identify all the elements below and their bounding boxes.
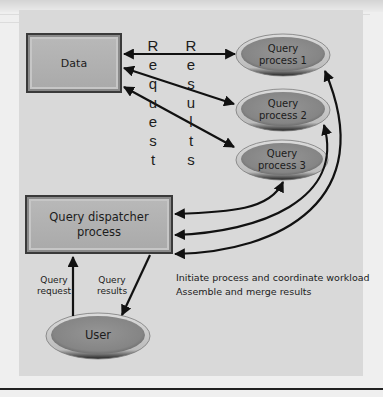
dispatcher-qp3-arrow [175,182,283,214]
data-box-label: Data [61,57,87,70]
caption-line1: Initiate process and coordinate workload [176,271,370,285]
dispatcher-caption: Initiate process and coordinate workload… [176,271,370,299]
query-request-label-line1: Query [34,275,74,286]
results-letter: e [184,57,198,72]
request-letter: u [146,95,160,110]
request-letter: R [146,38,160,53]
results-letter: t [184,133,198,148]
results-letter: l [184,114,198,129]
request-letter: t [146,152,160,167]
data-qp3-arrow [124,87,234,147]
results-letter: R [184,38,198,53]
query-results-label-line1: Query [92,275,132,286]
query-results-label: Query results [92,275,132,297]
qp3-label-line1: Query [258,148,306,160]
query-process-2-label: Query process 2 [241,93,325,127]
data-qp2-arrow [124,68,234,104]
query-dispatcher-box: Query dispatcher process [25,195,173,254]
user-label-text: User [85,329,111,341]
data-box: Data [26,33,122,93]
request-letter: e [146,57,160,72]
qp2-label-line2: process 2 [259,110,307,122]
query-results-label-line2: results [92,286,132,297]
results-letter: s [184,152,198,167]
query-request-label: Query request [34,275,74,297]
request-letter: q [146,76,160,91]
qp1-label-line2: process 1 [259,55,307,67]
qp2-label-line1: Query [259,98,307,110]
user-label: User [56,326,140,344]
request-letter: e [146,114,160,129]
qp3-label-line2: process 3 [258,160,306,172]
caption-line2: Assemble and merge results [176,285,370,299]
qp1-label-line1: Query [259,43,307,55]
results-letter: s [184,76,198,91]
query-request-label-line2: request [34,286,74,297]
dispatcher-label-line2: process [49,225,148,240]
request-letter: s [146,133,160,148]
dispatcher-label-line1: Query dispatcher [49,210,148,225]
results-letter: u [184,95,198,110]
query-process-3-label: Query process 3 [240,143,324,177]
query-process-1-label: Query process 1 [241,38,325,72]
